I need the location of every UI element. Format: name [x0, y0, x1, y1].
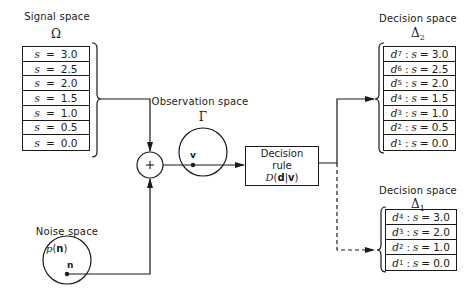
row-eq: = [46, 137, 55, 149]
row-var: s [411, 92, 416, 104]
table-row: d4:s=1.5 [384, 91, 455, 106]
row-decision-sub: 3 [399, 228, 403, 236]
row-decision: d [391, 107, 398, 119]
row-decision-sub: 2 [397, 123, 401, 131]
row-decision: d [391, 63, 398, 75]
signal-brace [92, 43, 101, 157]
table-row: d1:s=0.0 [386, 255, 456, 270]
table-row: s=3.0 [23, 47, 89, 62]
table-row: d4:s=3.0 [386, 210, 456, 225]
row-var: s [413, 257, 418, 269]
row-value: 2.5 [432, 63, 449, 75]
row-decision-sub: 1 [397, 139, 401, 147]
dashed-branch-line [337, 163, 374, 250]
row-var: s [411, 121, 416, 133]
decision-space-2-table: d7:s=3.0d6:s=2.5d5:s=2.0d4:s=1.5d3:s=1.0… [383, 46, 456, 151]
rule-output-line [319, 99, 374, 163]
row-decision-sub: 3 [397, 109, 401, 117]
row-decision: d [392, 211, 399, 223]
row-var: s [35, 48, 40, 60]
row-decision: d [391, 48, 398, 60]
row-var: s [35, 92, 40, 104]
row-eq: = [46, 63, 55, 75]
row-value: 2.0 [433, 226, 450, 238]
rule-arg2: v [288, 172, 295, 183]
table-row: d6:s=2.5 [384, 62, 455, 77]
row-value: 3.0 [432, 48, 449, 60]
row-decision: d [392, 257, 399, 269]
row-decision-sub: 4 [399, 213, 403, 221]
row-var: s [411, 107, 416, 119]
row-eq: = [46, 121, 55, 133]
v-point-dot [191, 163, 195, 167]
row-value: 2.0 [61, 77, 78, 89]
noise-point-label: n [67, 260, 73, 270]
row-eq: = [46, 107, 55, 119]
row-value: 3.0 [61, 48, 78, 60]
table-row: d7:s=3.0 [384, 47, 455, 62]
row-value: 2.5 [61, 63, 78, 75]
row-eq: = [46, 48, 55, 60]
row-decision: d [392, 226, 399, 238]
delta2-symbol: Δ2 [411, 26, 425, 42]
decision-rule-box: Decision rule D(d|v) [245, 146, 319, 186]
table-row: d3:s=2.0 [386, 225, 456, 240]
row-var: s [35, 107, 40, 119]
row-var: s [411, 137, 416, 149]
signal-space-title: Signal space [24, 11, 90, 22]
observation-point-label: v [190, 150, 196, 160]
observation-space-circle [179, 128, 227, 176]
row-value: 1.0 [433, 241, 450, 253]
row-decision: d [392, 241, 399, 253]
row-var: s [35, 77, 40, 89]
table-row: s=1.5 [23, 91, 89, 106]
row-value: 0.5 [432, 121, 449, 133]
table-row: s=1.0 [23, 106, 89, 121]
noise-density-label: p(n) [46, 243, 67, 254]
signal-detection-diagram: Signal space Ω s=3.0s=2.5s=2.0s=1.5s=1.0… [0, 0, 475, 294]
row-value: 1.5 [432, 92, 449, 104]
row-value: 2.0 [432, 77, 449, 89]
row-decision: d [391, 92, 398, 104]
row-value: 0.5 [61, 121, 78, 133]
row-var: s [35, 137, 40, 149]
row-value: 0.0 [61, 137, 78, 149]
row-decision-sub: 4 [397, 94, 401, 102]
row-var: s [413, 226, 418, 238]
row-decision-sub: 7 [397, 50, 401, 58]
table-row: d2:s=0.5 [384, 121, 455, 136]
table-row: d5:s=2.0 [384, 76, 455, 91]
noise-space-title: Noise space [36, 226, 98, 237]
decision-space-2-title: Decision space [379, 13, 457, 24]
decision-rule-line2: rule [246, 160, 318, 172]
table-row: s=2.0 [23, 76, 89, 91]
rule-func: D [266, 172, 274, 183]
row-eq: = [46, 77, 55, 89]
row-decision-sub: 1 [399, 259, 403, 267]
table-row: s=2.5 [23, 62, 89, 77]
row-decision-sub: 5 [397, 79, 401, 87]
signal-to-summer-line [101, 99, 150, 151]
density-func: p [46, 243, 52, 254]
row-var: s [413, 241, 418, 253]
row-value: 1.0 [432, 107, 449, 119]
row-var: s [411, 77, 416, 89]
row-var: s [35, 121, 40, 133]
gamma-symbol: Γ [199, 110, 207, 124]
table-row: s=0.5 [23, 121, 89, 136]
rule-arg1: d [277, 172, 284, 183]
row-var: s [413, 211, 418, 223]
row-decision: d [391, 121, 398, 133]
row-decision-sub: 2 [399, 243, 403, 251]
row-value: 3.0 [433, 211, 450, 223]
row-decision-sub: 6 [397, 65, 401, 73]
decision-space-1-title: Decision space [379, 185, 457, 196]
row-value: 0.0 [432, 137, 449, 149]
row-eq: = [46, 92, 55, 104]
delta2-subscript: 2 [420, 33, 425, 42]
row-var: s [411, 63, 416, 75]
observation-space-title: Observation space [152, 96, 249, 107]
row-value: 1.0 [61, 107, 78, 119]
delta2-glyph: Δ [411, 26, 420, 40]
row-decision: d [391, 77, 398, 89]
